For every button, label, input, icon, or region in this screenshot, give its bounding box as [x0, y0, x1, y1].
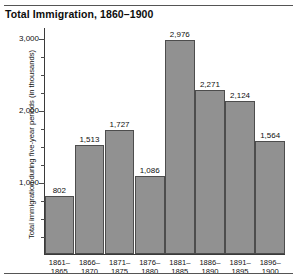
y-axis-tick-label-text: 2,000: [19, 106, 39, 115]
x-axis-tick-labels: 1861–18651866–18701871–18751876–18801881…: [44, 258, 285, 280]
bar-value-label: 1,513: [72, 135, 108, 144]
y-axis-minor-tick: [41, 93, 45, 94]
y-axis-tick-label: 3,000: [1, 34, 39, 44]
bar-value-label: 2,271: [192, 80, 228, 89]
y-axis-minor-tick: [41, 147, 45, 148]
bar-value-label: 1,727: [102, 120, 138, 129]
bar-value-label: 802: [42, 186, 78, 195]
y-axis-major-tick: [39, 183, 45, 184]
x-axis-label-line-start: 1896–: [251, 258, 289, 267]
top-divider-rule: [4, 5, 293, 6]
bar: [105, 130, 135, 254]
y-axis-major-tick: [39, 111, 45, 112]
bar: [75, 145, 105, 254]
bar: [165, 40, 195, 254]
bottom-divider-rule: [4, 273, 293, 274]
bar: [135, 176, 165, 254]
y-axis-minor-tick: [41, 201, 45, 202]
y-axis-tick-label-text: 1,000: [19, 178, 39, 187]
y-axis-minor-tick: [41, 237, 45, 238]
bar-value-label: 1,564: [252, 131, 288, 140]
plot-area: 8021,5131,7271,0862,9762,2712,1241,564 1…: [44, 28, 285, 255]
bar: [195, 90, 225, 254]
y-axis-tick-label: 1,000: [1, 178, 39, 188]
y-axis-major-tick: [39, 39, 45, 40]
bar: [255, 141, 285, 254]
bar: [45, 196, 75, 254]
bar: [225, 101, 255, 254]
y-axis-minor-tick: [41, 219, 45, 220]
y-axis-minor-tick: [41, 165, 45, 166]
y-axis-title: Total immigration during five-year perio…: [27, 37, 36, 252]
x-axis-label-line-end: 1900: [251, 267, 289, 276]
y-axis-tick-label: 2,000: [1, 106, 39, 116]
y-axis-minor-tick: [41, 129, 45, 130]
bar-value-label: 2,976: [162, 30, 198, 39]
bar-value-label: 1,086: [132, 166, 168, 175]
chart-title: Total Immigration, 1860–1900: [5, 8, 154, 20]
y-axis-tick-label-text: 3,000: [19, 34, 39, 43]
bar-series: 8021,5131,7271,0862,9762,2712,1241,564: [44, 28, 285, 255]
bar-value-label: 2,124: [222, 91, 258, 100]
immigration-bar-chart-figure: Total Immigration, 1860–1900 Total immig…: [0, 0, 297, 280]
y-axis-minor-tick: [41, 75, 45, 76]
y-axis-minor-tick: [41, 57, 45, 58]
